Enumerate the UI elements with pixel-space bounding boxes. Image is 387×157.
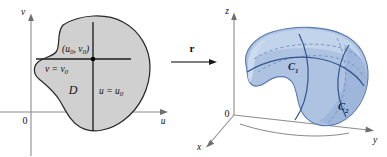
label-v-base: v = v: [45, 64, 65, 74]
mapping-label-r: r: [190, 42, 195, 54]
label-region-D: D: [68, 83, 78, 97]
y-axis: [234, 115, 374, 132]
xyz-space-panel: z y x 0 C1 C2: [196, 6, 378, 152]
point-label-end: ): [85, 44, 89, 55]
mapping-arrow-head: [209, 59, 217, 65]
uv-plane-panel: v u 0 (u0, v0) v = v0 u = u0 D: [0, 7, 168, 156]
z-axis-label: z: [224, 6, 229, 16]
label-u-sub: 0: [120, 90, 124, 98]
v-axis: [28, 14, 34, 157]
label-v-sub: 0: [65, 68, 69, 76]
y-axis-label: y: [372, 135, 378, 145]
parametric-surface-figure: v u 0 (u0, v0) v = v0 u = u0 D r: [0, 0, 387, 156]
u-axis-label: u: [161, 116, 166, 126]
v-axis-label: v: [21, 7, 26, 17]
curve-C2-subscript: 2: [344, 107, 349, 115]
curve-C1-subscript: 1: [295, 67, 299, 75]
x-axis-label: x: [196, 142, 202, 152]
mapping-arrow-group: r: [171, 42, 217, 65]
label-u-base: u = u: [99, 86, 120, 96]
uv-origin-label: 0: [23, 115, 28, 126]
z-axis: [231, 13, 237, 116]
point-u0-v0-dot: [91, 57, 96, 62]
x-axis: [206, 115, 234, 148]
xyz-origin-label: 0: [225, 108, 230, 119]
